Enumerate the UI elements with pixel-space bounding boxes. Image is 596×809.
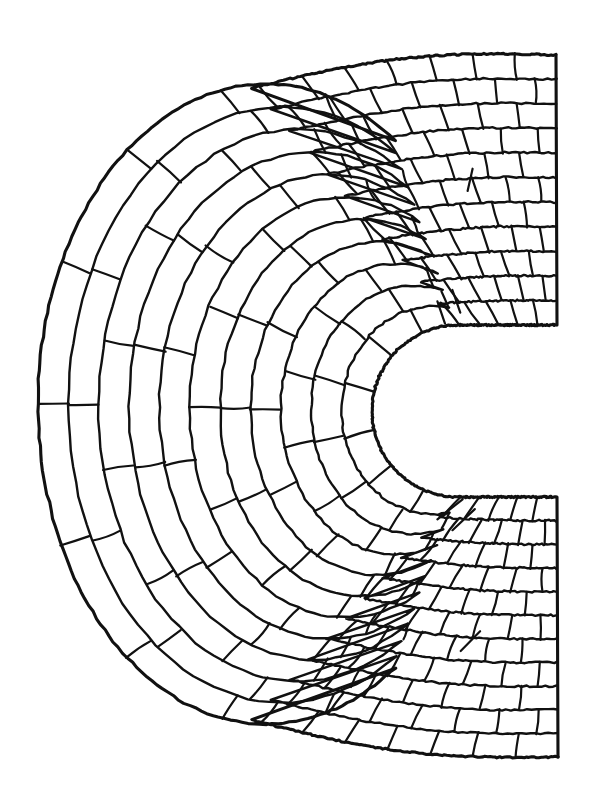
masonry-stroke [189,407,221,408]
masonry-stroke [541,568,542,591]
masonry-stroke [545,520,546,544]
masonry-stroke [557,497,558,757]
masonry-stroke [540,615,541,640]
masonry-stroke [556,55,557,325]
figure-canvas: Horseshoe-shaped paved stone structure p… [0,0,596,809]
line-drawing [0,0,596,809]
